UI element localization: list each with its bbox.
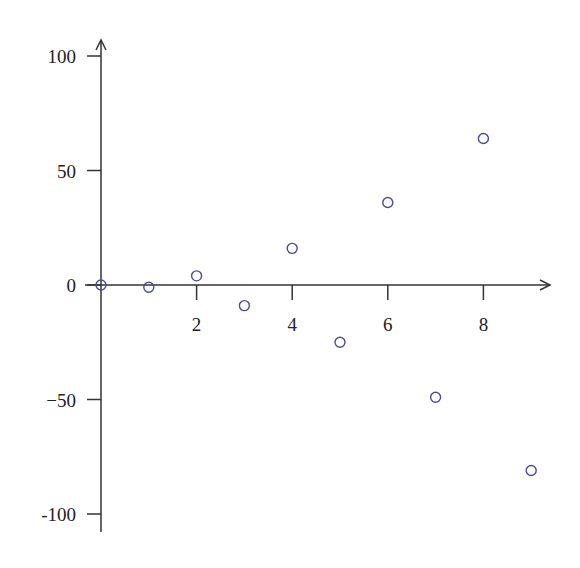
x-tick-label: 4: [287, 314, 297, 335]
y-tick-label: 50: [57, 161, 76, 182]
y-tick-label: 100: [48, 46, 77, 67]
data-point: [239, 301, 249, 311]
data-point: [478, 133, 488, 143]
scatter-chart: 2468100500−50-100: [0, 0, 580, 568]
axes: [85, 40, 550, 532]
data-point: [192, 271, 202, 281]
x-tick-label: 2: [192, 314, 202, 335]
data-point: [431, 392, 441, 402]
data-point: [383, 198, 393, 208]
y-tick-label: 0: [67, 275, 77, 296]
data-point: [287, 243, 297, 253]
y-tick-label: −50: [46, 390, 76, 411]
data-point: [335, 337, 345, 347]
x-tick-label: 8: [479, 314, 489, 335]
data-point: [144, 282, 154, 292]
data-points: [96, 133, 536, 475]
data-point: [526, 465, 536, 475]
y-tick-label: -100: [41, 504, 76, 525]
x-tick-label: 6: [383, 314, 393, 335]
